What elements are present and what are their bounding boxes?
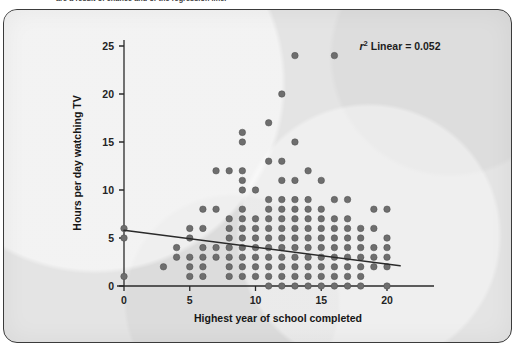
- scatter-point: [239, 264, 246, 271]
- scatter-point: [239, 177, 246, 184]
- scatter-point: [200, 244, 207, 251]
- scatter-point: [357, 283, 364, 290]
- scatter-point: [173, 254, 180, 261]
- scatter-point: [292, 177, 299, 184]
- scatter-point: [265, 235, 272, 242]
- scatter-point: [239, 254, 246, 261]
- y-axis-ticks: 0510152025: [102, 40, 124, 292]
- scatter-point: [187, 225, 194, 232]
- scatter-point: [239, 168, 246, 175]
- scatter-point: [252, 216, 259, 223]
- scatter-point: [384, 235, 391, 242]
- scatter-point: [265, 283, 272, 290]
- scatter-point: [187, 254, 194, 261]
- scatter-point: [318, 273, 325, 280]
- scatter-point: [252, 264, 259, 271]
- scatter-point: [160, 264, 167, 271]
- scatter-point: [292, 225, 299, 232]
- scatter-point: [344, 235, 351, 242]
- scatter-point: [252, 235, 259, 242]
- scatter-point: [292, 216, 299, 223]
- r-squared-value-text: Linear = 0.052: [368, 40, 441, 52]
- scatter-point: [344, 264, 351, 271]
- scatter-point: [200, 264, 207, 271]
- scatter-point: [252, 254, 259, 261]
- scatter-point: [384, 254, 391, 261]
- scatter-point: [279, 254, 286, 261]
- scatter-point: [357, 244, 364, 251]
- scatter-point: [226, 273, 233, 280]
- scatter-point: [121, 235, 128, 242]
- scatter-point: [292, 273, 299, 280]
- scatter-point: [371, 264, 378, 271]
- scatter-point: [239, 187, 246, 194]
- x-axis-ticks: 05101520: [121, 286, 393, 306]
- scatter-point: [265, 120, 272, 127]
- scatter-point: [226, 264, 233, 271]
- scatter-point: [371, 225, 378, 232]
- scatter-point: [331, 216, 338, 223]
- scatter-point: [305, 168, 312, 175]
- scatter-point: [292, 264, 299, 271]
- scatter-point: [344, 273, 351, 280]
- scatter-point: [305, 206, 312, 213]
- scatter-point: [292, 139, 299, 146]
- scatter-point: [292, 235, 299, 242]
- scatter-point: [239, 206, 246, 213]
- scatter-point: [265, 273, 272, 280]
- y-tick-label: 0: [108, 280, 114, 292]
- scatter-point: [279, 235, 286, 242]
- scatter-point: [239, 225, 246, 232]
- scatter-point: [239, 129, 246, 136]
- scatter-point: [265, 196, 272, 203]
- scatter-point: [279, 216, 286, 223]
- scatter-point: [252, 273, 259, 280]
- scatter-point: [318, 264, 325, 271]
- scatter-point: [213, 254, 220, 261]
- y-tick-label: 15: [102, 136, 114, 148]
- scatter-point: [318, 225, 325, 232]
- scatter-point: [331, 235, 338, 242]
- x-tick-label: 20: [381, 294, 393, 306]
- r-squared-annotation: r2 Linear = 0.052: [360, 39, 441, 52]
- scatter-point: [344, 225, 351, 232]
- page-caption-sliver: are a result of chance and of the regres…: [0, 0, 519, 9]
- scatter-point: [331, 264, 338, 271]
- scatter-point: [384, 244, 391, 251]
- scatter-point: [279, 273, 286, 280]
- scatter-point: [384, 283, 391, 290]
- scatter-point: [305, 216, 312, 223]
- scatter-point: [279, 91, 286, 98]
- scatter-point: [265, 216, 272, 223]
- scatter-point: [357, 225, 364, 232]
- scatter-point: [384, 206, 391, 213]
- scatter-point: [318, 244, 325, 251]
- scatter-point: [187, 264, 194, 271]
- scatter-point: [371, 206, 378, 213]
- scatter-point: [279, 177, 286, 184]
- scatter-point: [279, 196, 286, 203]
- scatter-point: [226, 168, 233, 175]
- page-caption-text: are a result of chance and of the regres…: [56, 0, 226, 3]
- y-tick-label: 5: [108, 232, 114, 244]
- scatter-point: [213, 206, 220, 213]
- scatter-point: [265, 225, 272, 232]
- scatter-point: [200, 206, 207, 213]
- scatter-point: [226, 216, 233, 223]
- scatter-point: [292, 206, 299, 213]
- x-tick-label: 0: [121, 294, 127, 306]
- scatter-point: [279, 264, 286, 271]
- scatter-point: [173, 244, 180, 251]
- scatter-point: [239, 139, 246, 146]
- scatter-point: [357, 235, 364, 242]
- scatter-point: [371, 244, 378, 251]
- scatter-point: [318, 216, 325, 223]
- scatter-point: [252, 225, 259, 232]
- scatter-point: [318, 206, 325, 213]
- scatter-plot: 0510152025 05101520 Highest year of scho…: [4, 10, 512, 343]
- scatter-point: [331, 273, 338, 280]
- scatter-point: [279, 206, 286, 213]
- scatter-point: [292, 196, 299, 203]
- scatter-point: [252, 187, 259, 194]
- scatter-point: [200, 225, 207, 232]
